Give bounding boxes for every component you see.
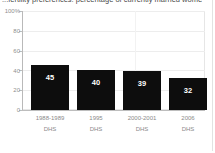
bar-value-label: 40: [77, 79, 115, 87]
bar-1995-dhs[interactable]: 40: [77, 70, 115, 110]
y-tick-label-40: 40: [0, 68, 20, 74]
chart-figure: ...fertility preferences: percentage of …: [0, 0, 215, 153]
y-tick-label-20: 20: [0, 87, 20, 93]
bar-1988-1989-dhs[interactable]: 45: [31, 65, 69, 110]
bars-layer: 45 40 39 32: [23, 11, 205, 110]
x-label-line1: 1995: [89, 115, 102, 121]
x-label-line1: 2000-2001: [128, 115, 157, 121]
x-label-line1: 2006: [181, 115, 194, 121]
y-tick-label-60: 60: [0, 48, 20, 54]
y-tick-label-80: 80: [0, 28, 20, 34]
bar-value-label: 39: [123, 80, 161, 88]
x-label-line2: DHS: [154, 124, 215, 135]
x-axis-labels: 1988-1989 DHS 1995 DHS 2000-2001 DHS 200…: [23, 113, 205, 147]
bar-2000-2001-dhs[interactable]: 39: [123, 71, 161, 110]
y-tick-label-100: 100%: [0, 8, 20, 14]
bar-slot-2: 39: [123, 11, 161, 110]
gridline-0: [22, 110, 205, 111]
bar-value-label: 32: [169, 87, 207, 95]
bar-2006-dhs[interactable]: 32: [169, 78, 207, 110]
bar-slot-3: 32: [169, 11, 207, 110]
bar-slot-1: 40: [77, 11, 115, 110]
bar-slot-0: 45: [31, 11, 69, 110]
x-label-line1: 1988-1989: [36, 115, 65, 121]
x-tick-label-3: 2006 DHS: [154, 113, 215, 135]
bar-value-label: 45: [31, 74, 69, 82]
chart-title: ...fertility preferences: percentage of …: [2, 0, 202, 4]
